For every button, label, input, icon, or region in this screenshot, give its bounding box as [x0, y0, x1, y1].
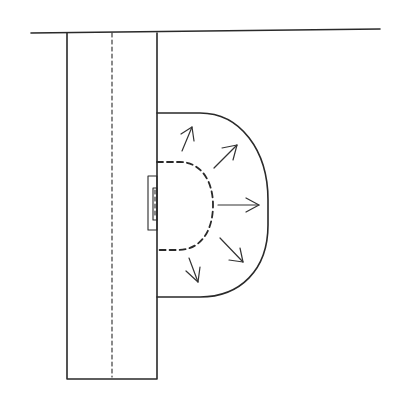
arrow-up-right-1-icon — [181, 127, 194, 151]
wall-fixture — [148, 176, 157, 230]
diagram-canvas — [0, 0, 400, 407]
arrow-down-right-icon — [220, 238, 243, 262]
arrow-right-icon — [218, 198, 259, 212]
arrow-down-icon — [186, 258, 200, 282]
arrow-up-right-2-icon — [214, 145, 237, 168]
top-wall-line — [31, 29, 380, 33]
inner-dashed-zone — [157, 162, 213, 250]
